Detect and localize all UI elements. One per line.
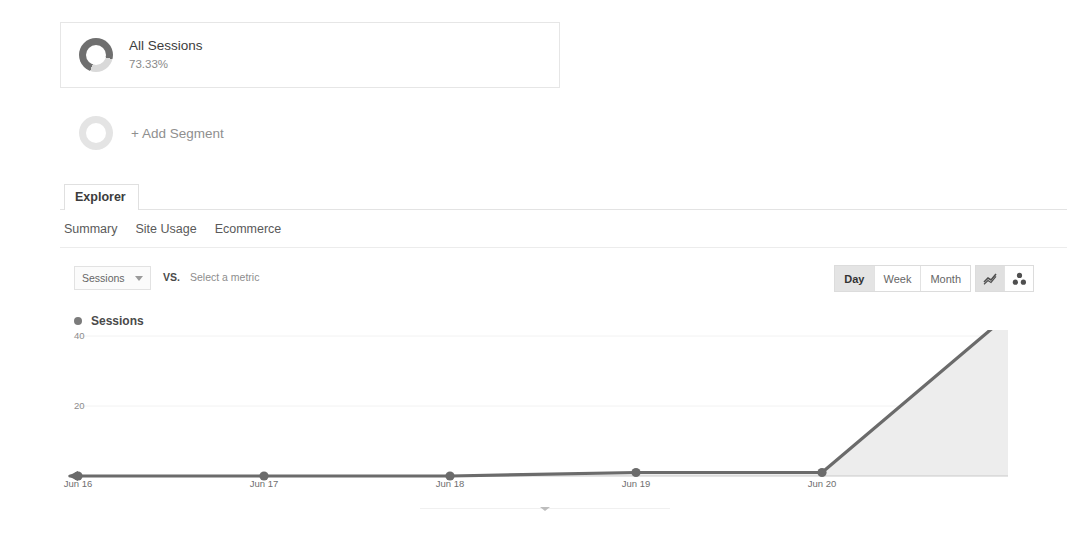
- metric-select-value: Sessions: [82, 272, 125, 284]
- chart-legend: Sessions: [74, 314, 144, 328]
- y-axis-label: 40: [74, 330, 85, 341]
- x-axis-label: Jun 16: [64, 478, 93, 489]
- chevron-down-icon: [540, 507, 550, 511]
- granularity-month[interactable]: Month: [921, 266, 970, 291]
- line-chart-icon[interactable]: [976, 266, 1005, 291]
- vs-label: VS.: [163, 271, 180, 283]
- x-axis-label: Jun 17: [250, 478, 279, 489]
- granularity-toggle: Day Week Month: [834, 265, 971, 292]
- segment-all-sessions[interactable]: All Sessions 73.33%: [60, 22, 560, 88]
- add-segment-label: + Add Segment: [131, 126, 224, 141]
- add-segment-button[interactable]: + Add Segment: [60, 102, 560, 164]
- tab-explorer[interactable]: Explorer: [64, 184, 139, 210]
- donut-ring-icon: [79, 38, 113, 72]
- segment-text: All Sessions 73.33%: [129, 37, 203, 73]
- chart-type-toggle: [975, 265, 1034, 292]
- sessions-line-chart: 2040Jun 16Jun 17Jun 18Jun 19Jun 20: [0, 330, 1067, 505]
- y-axis-label: 20: [74, 400, 85, 411]
- sub-tab-summary[interactable]: Summary: [64, 222, 117, 236]
- granularity-day[interactable]: Day: [835, 266, 874, 291]
- legend-label: Sessions: [91, 314, 144, 328]
- legend-marker-icon: [74, 317, 82, 325]
- sub-tab-ecommerce[interactable]: Ecommerce: [215, 222, 282, 236]
- sub-tab-bar: Summary Site Usage Ecommerce: [64, 222, 281, 236]
- chart-controls: Sessions VS. Select a metric Day Week Mo…: [0, 262, 1067, 298]
- motion-chart-icon[interactable]: [1005, 266, 1033, 291]
- segment-bar: All Sessions 73.33% + Add Segment: [60, 22, 560, 164]
- segment-percent: 73.33%: [129, 57, 203, 73]
- empty-ring-icon: [79, 116, 113, 150]
- sub-tab-site-usage[interactable]: Site Usage: [135, 222, 196, 236]
- segment-title: All Sessions: [129, 37, 203, 55]
- x-axis-label: Jun 20: [808, 478, 837, 489]
- granularity-week[interactable]: Week: [875, 266, 922, 291]
- chart-canvas: [0, 330, 1067, 505]
- select-a-metric-link[interactable]: Select a metric: [190, 271, 259, 283]
- sub-tab-divider: [60, 247, 1067, 248]
- tab-divider: [60, 209, 1067, 210]
- x-axis-label: Jun 18: [436, 478, 465, 489]
- x-axis-label: Jun 19: [622, 478, 651, 489]
- chevron-down-icon: [135, 276, 143, 281]
- metric-select[interactable]: Sessions: [74, 266, 151, 290]
- chart-collapse-handle[interactable]: [420, 503, 670, 515]
